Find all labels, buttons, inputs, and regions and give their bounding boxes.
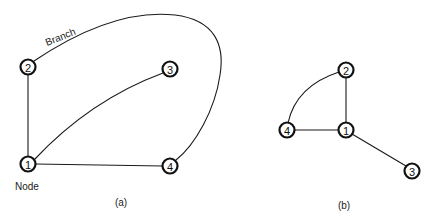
svg-text:4: 4 (167, 161, 173, 173)
svg-text:2: 2 (25, 62, 31, 74)
edge-a-1-4 (35, 164, 163, 166)
node-b-1: 1 (339, 123, 354, 138)
svg-text:1: 1 (343, 125, 349, 137)
caption-b: (b) (338, 200, 350, 211)
node-b-3: 3 (405, 164, 420, 179)
svg-text:2: 2 (343, 65, 349, 77)
diagram-b: 2 1 4 3 (b) (280, 63, 420, 212)
node-a-3: 3 (163, 62, 178, 77)
svg-text:3: 3 (167, 64, 173, 76)
node-b-2: 2 (339, 63, 354, 78)
diagram-a: Branch 2 3 1 4 Node (a) (15, 14, 221, 208)
edge-b-2-4 (288, 72, 339, 123)
svg-text:1: 1 (25, 159, 31, 171)
edge-b-1-3 (352, 134, 406, 166)
svg-text:4: 4 (284, 125, 290, 137)
node-label: Node (15, 181, 39, 192)
svg-text:3: 3 (409, 166, 415, 178)
caption-a: (a) (115, 197, 127, 208)
node-b-4: 4 (280, 123, 295, 138)
node-a-4: 4 (163, 159, 178, 174)
node-a-1: 1 (21, 157, 36, 172)
node-a-2: 2 (21, 60, 36, 75)
graph-diagrams: Branch 2 3 1 4 Node (a) 2 (0, 0, 439, 222)
edge-a-1-3 (34, 73, 163, 160)
